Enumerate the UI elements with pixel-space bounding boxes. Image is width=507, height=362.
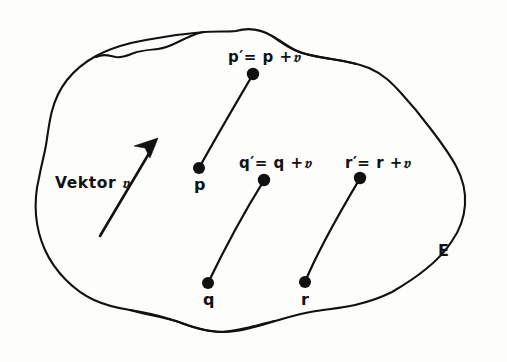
vector-symbol-icon: 𝔳	[303, 156, 311, 171]
segment-q-to-q-prime	[208, 182, 263, 283]
label-q-prime-equation-text: q′= q +	[239, 154, 304, 172]
label-point-p: p	[194, 177, 206, 193]
point-dot-p-prime	[247, 68, 259, 80]
region-outline-top-wobble	[96, 32, 203, 57]
segment-r-to-r-prime	[305, 180, 359, 282]
label-region-e: E	[438, 243, 449, 259]
label-vektor-text: Vektor	[55, 174, 116, 192]
vector-symbol-icon: 𝔳	[403, 156, 411, 171]
label-point-r: r	[301, 292, 309, 308]
label-vektor: Vektor𝔳	[55, 176, 130, 192]
point-dot-r	[299, 276, 311, 288]
point-dot-p	[193, 162, 205, 174]
vector-symbol-icon: 𝔳	[292, 50, 300, 65]
label-point-q: q	[203, 292, 215, 308]
label-p-prime-equation: p′= p +𝔳	[228, 50, 300, 65]
point-dot-r-prime	[354, 172, 366, 184]
label-p-prime-equation-text: p′= p +	[228, 48, 293, 66]
label-r-prime-equation-text: r′= r +	[345, 154, 403, 172]
label-r-prime-equation: r′= r +𝔳	[345, 156, 410, 171]
diagram-figure: p′= p +𝔳 q′= q +𝔳 r′= r +𝔳 p q r E Vekto…	[0, 0, 507, 362]
point-dot-q-prime	[258, 174, 270, 186]
vector-symbol-icon: 𝔳	[122, 176, 130, 191]
vector-arrow-head	[134, 138, 158, 158]
label-q-prime-equation: q′= q +𝔳	[239, 156, 311, 171]
point-dot-q	[202, 277, 214, 289]
